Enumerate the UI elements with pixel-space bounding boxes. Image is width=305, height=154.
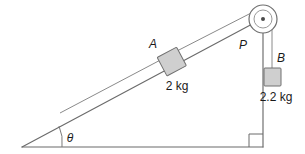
pulley-group <box>249 5 277 33</box>
theta-angle-label: θ <box>67 131 74 145</box>
theta-angle-arc <box>59 126 62 147</box>
pulley-axle-dot <box>261 17 265 21</box>
block-b-shape <box>264 68 281 86</box>
pulley-label: P <box>239 38 247 52</box>
block-a-group <box>157 47 186 76</box>
block-a-shape <box>157 47 186 76</box>
block-b-label: B <box>277 51 285 65</box>
physics-diagram: A 2 kg B 2.2 kg P θ <box>0 0 305 154</box>
block-a-label: A <box>148 37 157 51</box>
string-incline-lower-segment <box>60 56 168 113</box>
incline-surface-line <box>22 22 256 147</box>
inclined-plane-figure: A 2 kg B 2.2 kg P θ <box>0 0 305 154</box>
block-a-mass-label: 2 kg <box>166 79 189 93</box>
right-angle-marker <box>249 134 263 147</box>
block-b-mass-label: 2.2 kg <box>260 90 293 104</box>
